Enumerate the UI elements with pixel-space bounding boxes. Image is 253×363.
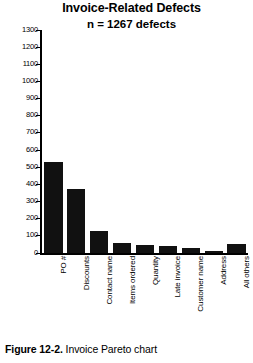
x-axis-label-text: PO # (59, 256, 68, 274)
y-axis-tick-label: 300 (4, 197, 38, 205)
figure-caption: Figure 12-2. Invoice Pareto chart (5, 343, 253, 356)
bar (90, 231, 108, 253)
bar (182, 248, 200, 253)
y-axis-tick-label: 600 (4, 146, 38, 154)
bar (205, 251, 223, 253)
x-axis-label: All others (240, 256, 249, 288)
y-axis-tick-label: 1200 (4, 43, 38, 51)
y-axis-tick-label: 1300 (4, 26, 38, 34)
bar (159, 246, 177, 253)
pareto-chart-plot: 0100200300400500600700800900100011001200… (0, 0, 253, 290)
figure-caption-text: Invoice Pareto chart (66, 343, 157, 355)
x-axis-label-text: All others (242, 256, 251, 288)
x-axis-label: Contact name (103, 256, 112, 305)
x-axis-label: Quantity (149, 256, 158, 285)
x-axis-label-text: Customer name (196, 256, 205, 312)
bar-series (42, 30, 248, 253)
y-axis-tick-label: 400 (4, 180, 38, 188)
x-axis-label: PO # (57, 256, 66, 274)
x-axis-label-text: Contact name (105, 256, 114, 305)
y-axis-tick-label: 700 (4, 128, 38, 136)
x-axis-label-text: Late invoice (173, 256, 182, 298)
y-axis-tick-label: 200 (4, 214, 38, 222)
figure-caption-label: Figure 12-2. (5, 343, 63, 355)
bar (227, 244, 245, 253)
y-axis-tick-label: 0 (4, 249, 38, 257)
y-axis-tick-label: 900 (4, 94, 38, 102)
x-axis-line (40, 253, 248, 255)
x-axis-label: Discounts (80, 256, 89, 290)
x-axis-label: Customer name (194, 256, 203, 312)
x-axis-label: Address (217, 256, 226, 285)
y-axis-tick-label: 500 (4, 163, 38, 171)
bar (136, 245, 154, 253)
figure-container: Invoice-Related Defects n = 1267 defects… (0, 0, 253, 363)
y-axis-tick-label: 100 (4, 231, 38, 239)
x-axis-label-text: Address (219, 256, 228, 285)
x-axis-label-text: Items ordered (128, 256, 137, 304)
bar (67, 189, 85, 253)
x-axis-label: Late invoice (171, 256, 180, 298)
x-axis-labels: PO #DiscountsContact nameItems orderedQu… (42, 256, 248, 338)
bar (113, 243, 131, 253)
y-axis-tick-label: 1000 (4, 77, 38, 85)
y-axis-tick-label: 800 (4, 111, 38, 119)
x-axis-label-text: Discounts (82, 256, 91, 290)
y-axis-tick-label: 1100 (4, 60, 38, 68)
x-axis-label: Items ordered (126, 256, 135, 304)
bar (44, 162, 62, 253)
x-axis-label-text: Quantity (151, 256, 160, 285)
